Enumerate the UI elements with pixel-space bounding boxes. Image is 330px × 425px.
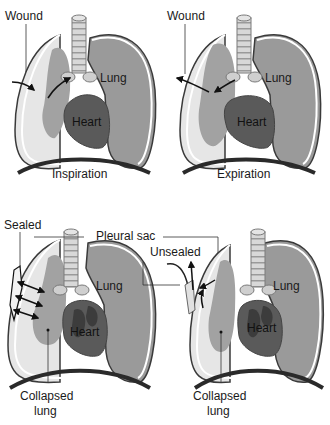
heart-label: Heart [70, 325, 100, 339]
lung-label: Lung [100, 71, 127, 85]
panel-sealed: Sealed Lung Heart Collapsed lung [4, 218, 156, 418]
caption-expiration: Expiration [217, 167, 270, 181]
wound-label: Wound [167, 9, 205, 23]
pleural-sac-label: Pleural sac [96, 229, 155, 243]
heart-label: Heart [247, 321, 277, 335]
trachea [251, 232, 265, 287]
wound-label: Wound [5, 9, 43, 23]
unsealed-label: Unsealed [150, 245, 201, 259]
trachea [237, 18, 251, 73]
heart-label: Heart [72, 115, 102, 129]
panel-unsealed: Unsealed Lung Heart Collapsed lung [150, 229, 323, 418]
sealed-label: Sealed [4, 218, 41, 232]
lung-label: Lung [273, 279, 300, 293]
panel-expiration: Wound Lung Heart Expiration [167, 9, 321, 181]
collapsed-label-line1: Collapsed [20, 389, 73, 403]
lung-label: Lung [96, 279, 123, 293]
collapsed-label-line2: lung [34, 404, 57, 418]
caption-inspiration: Inspiration [52, 167, 107, 181]
heart-label: Heart [237, 115, 267, 129]
lung-label: Lung [265, 71, 292, 85]
pneumothorax-diagram: Wound Lung Heart Inspiration Wound Lung … [0, 0, 330, 425]
collapsed-label-line2: lung [207, 404, 230, 418]
collapsed-label-line1: Collapsed [193, 389, 246, 403]
trachea [64, 232, 78, 287]
trachea [72, 18, 86, 73]
panel-inspiration: Wound Lung Heart Inspiration [5, 9, 156, 181]
